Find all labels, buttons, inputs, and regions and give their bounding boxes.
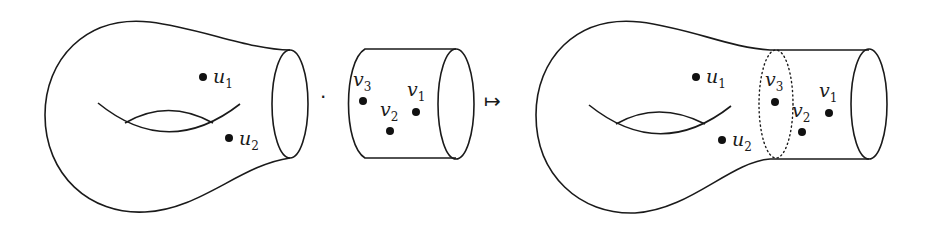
gluing-diagram: u1 u2 · v3 v2 v1 ↦ u1 u2 v3 v2 v1: [0, 0, 929, 234]
label-v2-result: v2: [792, 99, 810, 125]
left-handle-upper-arc: [125, 111, 213, 124]
result-handle-upper-arc: [616, 112, 705, 124]
point-v3-result: [771, 98, 779, 106]
label-v1-result: v1: [819, 79, 837, 105]
left-surface-boundary-circle: [272, 50, 308, 158]
point-v1-result: [825, 109, 833, 117]
cylinder: v3 v2 v1: [349, 49, 475, 159]
label-v3-result: v3: [765, 68, 783, 94]
point-v1: [412, 108, 420, 116]
result-surface: u1 u2 v3 v2 v1: [536, 21, 887, 213]
label-v1: v1: [407, 78, 425, 104]
label-u1: u1: [213, 65, 233, 91]
left-handle-lower-arc: [98, 103, 240, 132]
label-u2: u2: [239, 127, 259, 153]
result-boundary-circle: [851, 49, 887, 159]
point-u2-result: [718, 136, 726, 144]
label-u1-result: u1: [706, 65, 726, 91]
cylinder-right-circle: [438, 49, 474, 159]
product-dot: ·: [320, 85, 326, 109]
result-surface-outline: [536, 21, 869, 213]
label-v3: v3: [353, 68, 371, 94]
result-handle-lower-arc: [589, 105, 731, 134]
point-v2: [386, 127, 394, 135]
left-surface: u1 u2: [45, 21, 308, 212]
label-u2-result: u2: [732, 128, 752, 154]
point-u1-result: [692, 73, 700, 81]
point-u1: [199, 73, 207, 81]
label-v2: v2: [380, 98, 398, 124]
left-surface-outline: [45, 21, 290, 212]
point-v3: [359, 97, 367, 105]
point-u2: [225, 134, 233, 142]
maps-to-arrow: ↦: [484, 89, 501, 113]
point-v2-result: [798, 128, 806, 136]
